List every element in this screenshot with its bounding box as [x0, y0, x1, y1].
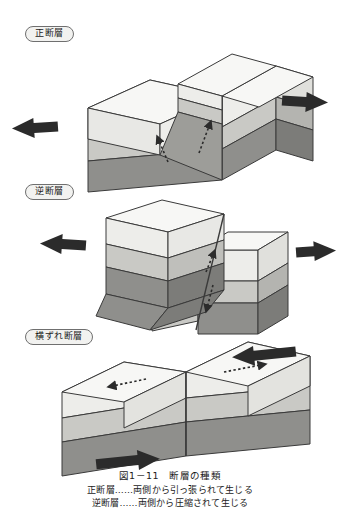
reverse-fault-left-block: [96, 200, 224, 330]
panel-reverse-fault: [39, 200, 336, 334]
reverse-fault-stress-arrow-left: [39, 232, 86, 255]
reverse-fault-stress-arrow-right: [295, 240, 336, 263]
panel-label-reverse-fault: 逆断層: [25, 184, 74, 200]
figure-caption-line-reverse: 逆断層……両側から圧縮されて生じる: [0, 496, 340, 509]
panel-normal-fault: [11, 54, 328, 192]
fault-types-figure: [0, 0, 340, 515]
panel-strike-slip-fault: [62, 342, 310, 476]
panel-label-normal-fault: 正断層: [25, 26, 74, 42]
normal-fault-stress-arrow-left: [11, 116, 58, 139]
figure-caption-title: 図1－11 断層の種類: [0, 468, 340, 482]
panel-label-strike-slip-fault: 横ずれ断層: [25, 329, 93, 345]
figure-caption-line-normal: 正断層……両側から引っ張られて生じる: [0, 483, 340, 496]
